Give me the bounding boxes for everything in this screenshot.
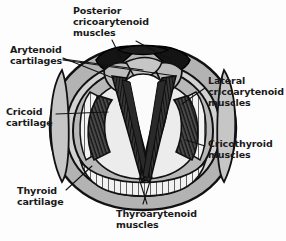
label-posterior-cricoarytenoid: Posterior cricoarytenoid muscles — [73, 5, 149, 39]
label-arytenoid-cartilages: Arytenoid cartilages — [10, 44, 62, 66]
thyroid-lamina-left — [51, 70, 69, 182]
label-thyroid-cartilage: Thyroid cartilage — [17, 185, 64, 207]
label-cricothyroid-muscles: Cricothyroid muscles — [208, 138, 273, 160]
label-cricoid-cartilage: Cricoid cartilage — [6, 106, 53, 128]
label-thyroarytenoid-muscles: Thyroarytenoid muscles — [116, 208, 197, 230]
label-lateral-cricoarytenoid: Lateral cricoarytenoid muscles — [208, 75, 284, 109]
